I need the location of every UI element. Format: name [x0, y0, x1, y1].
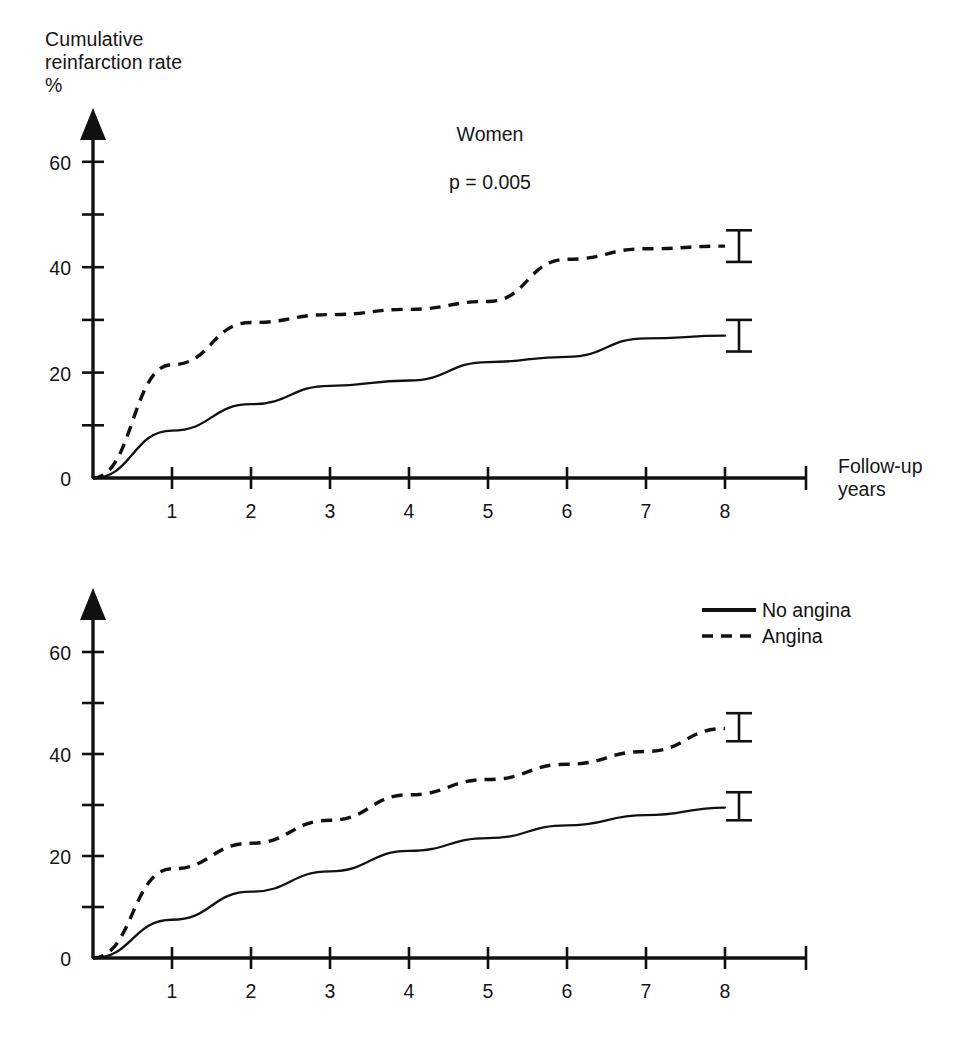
legend-label-angina: Angina — [762, 623, 823, 649]
svg-text:3: 3 — [325, 500, 336, 522]
svg-text:5: 5 — [483, 500, 494, 522]
figure-cumulative-reinfarction-rate: Cumulative reinfarction rate % Women p =… — [0, 0, 959, 1045]
svg-text:20: 20 — [49, 363, 71, 385]
svg-text:60: 60 — [49, 642, 71, 664]
svg-text:1: 1 — [167, 980, 178, 1002]
svg-text:60: 60 — [49, 152, 71, 174]
svg-text:8: 8 — [720, 980, 731, 1002]
svg-text:1: 1 — [167, 500, 178, 522]
svg-text:6: 6 — [562, 500, 573, 522]
legend-swatches — [700, 597, 760, 653]
svg-text:4: 4 — [404, 980, 415, 1002]
svg-text:20: 20 — [49, 846, 71, 868]
legend-label-no-angina: No angina — [762, 597, 851, 623]
svg-text:7: 7 — [641, 500, 652, 522]
chart-panel-women: Cumulative reinfarction rate % Women p =… — [0, 0, 959, 525]
svg-text:6: 6 — [562, 980, 573, 1002]
svg-text:40: 40 — [49, 257, 71, 279]
svg-text:2: 2 — [246, 980, 257, 1002]
svg-text:2: 2 — [246, 500, 257, 522]
svg-text:0: 0 — [60, 948, 71, 970]
svg-text:40: 40 — [49, 744, 71, 766]
svg-text:7: 7 — [641, 980, 652, 1002]
svg-text:4: 4 — [404, 500, 415, 522]
svg-text:5: 5 — [483, 980, 494, 1002]
svg-text:3: 3 — [325, 980, 336, 1002]
svg-text:8: 8 — [720, 500, 731, 522]
plot-area-women: 020406012345678 — [0, 0, 959, 525]
svg-text:0: 0 — [60, 468, 71, 490]
